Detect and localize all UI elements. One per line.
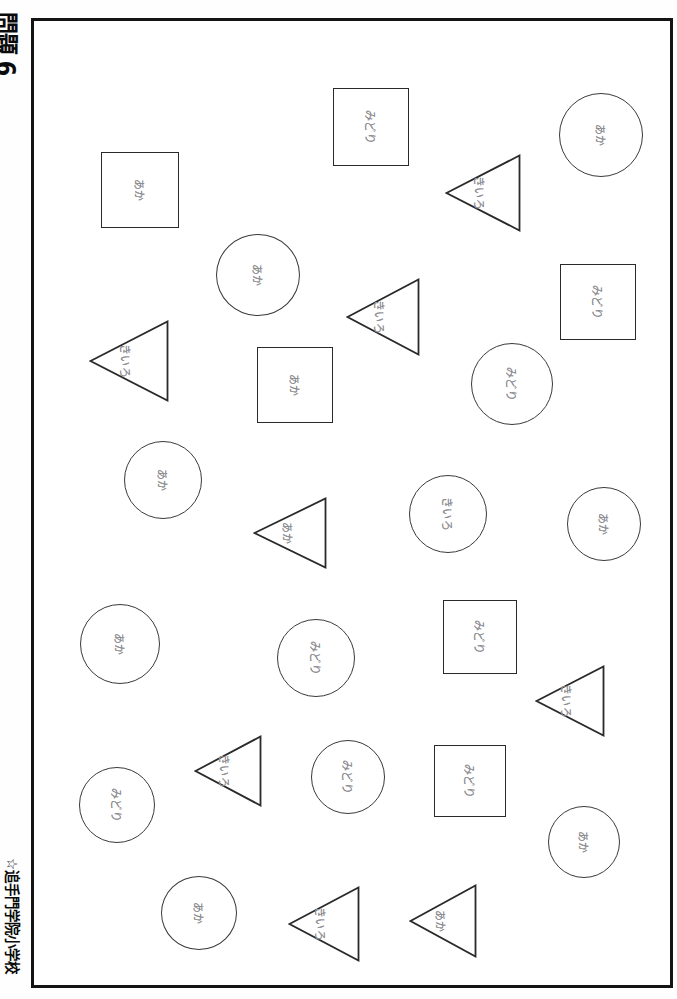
shape-color-label: みどり	[363, 110, 379, 145]
shape-triangle-きいろ[interactable]: きいろ	[89, 320, 169, 402]
shape-circle-あか[interactable]: あか	[559, 93, 643, 177]
school-name-label: ☆追手門学院小学校	[2, 858, 24, 974]
shape-color-label: みどり	[462, 764, 478, 799]
shape-color-label: みどり	[504, 367, 520, 402]
shape-color-label: あか	[132, 179, 148, 202]
shape-color-label: あか	[191, 902, 207, 925]
shape-circle-みどり[interactable]: みどり	[471, 343, 553, 425]
shape-triangle-きいろ[interactable]: きいろ	[535, 665, 605, 737]
shape-color-label: きいろ	[472, 176, 488, 211]
shape-color-label: あか	[593, 124, 609, 147]
shape-square-みどり[interactable]: みどり	[443, 600, 517, 674]
shape-color-label: あか	[112, 633, 128, 656]
shape-circle-あか[interactable]: あか	[161, 876, 237, 950]
shape-circle-あか[interactable]: あか	[80, 604, 160, 684]
shape-square-みどり[interactable]: みどり	[434, 745, 506, 817]
shape-color-label: みどり	[340, 760, 356, 795]
shape-color-label: きいろ	[217, 754, 233, 789]
shape-triangle-きいろ[interactable]: きいろ	[288, 886, 360, 962]
shape-color-label: あか	[596, 513, 612, 536]
shape-square-あか[interactable]: あか	[257, 347, 333, 423]
shape-color-label: みどり	[590, 285, 606, 320]
shape-color-label: みどり	[308, 641, 324, 676]
shape-color-label: きいろ	[313, 907, 329, 942]
shape-color-label: みどり	[109, 788, 125, 823]
shape-color-label: あか	[287, 374, 303, 397]
shape-square-みどり[interactable]: みどり	[560, 264, 636, 340]
shape-color-label: きいろ	[372, 300, 388, 335]
shape-circle-あか[interactable]: あか	[216, 234, 300, 316]
shape-circle-みどり[interactable]: みどり	[311, 740, 385, 814]
shape-square-みどり[interactable]: みどり	[333, 88, 409, 166]
shape-color-label: きいろ	[559, 684, 575, 719]
question-number-label: 問題 6	[0, 12, 26, 75]
shape-circle-あか[interactable]: あか	[124, 441, 202, 519]
shape-triangle-あか[interactable]: あか	[253, 497, 327, 569]
shape-color-label: あか	[250, 264, 266, 287]
shape-triangle-あか[interactable]: あか	[409, 884, 477, 958]
shape-triangle-きいろ[interactable]: きいろ	[445, 154, 521, 232]
shape-square-あか[interactable]: あか	[101, 152, 179, 228]
shape-triangle-きいろ[interactable]: きいろ	[346, 278, 420, 356]
shape-color-label: あか	[280, 522, 296, 545]
shape-circle-あか[interactable]: あか	[548, 806, 620, 878]
shape-color-label: きいろ	[118, 344, 134, 379]
shape-circle-みどり[interactable]: みどり	[79, 767, 155, 843]
page-frame-border: みどりあかあかきいろあかみどりきいろきいろあかみどりあかあかきいろあかあかみどり…	[31, 18, 673, 988]
shape-circle-きいろ[interactable]: きいろ	[409, 475, 487, 553]
shape-color-label: あか	[433, 910, 449, 933]
shape-triangle-きいろ[interactable]: きいろ	[194, 735, 262, 807]
shape-color-label: みどり	[472, 620, 488, 655]
shape-color-label: あか	[576, 831, 592, 854]
shape-circle-みどり[interactable]: みどり	[277, 619, 355, 697]
shape-circle-あか[interactable]: あか	[567, 487, 641, 561]
worksheet-page: 問題 6 ☆追手門学院小学校 みどりあかあかきいろあかみどりきいろきいろあかみど…	[0, 0, 677, 999]
shape-color-label: あか	[155, 469, 171, 492]
shape-color-label: きいろ	[440, 497, 456, 532]
